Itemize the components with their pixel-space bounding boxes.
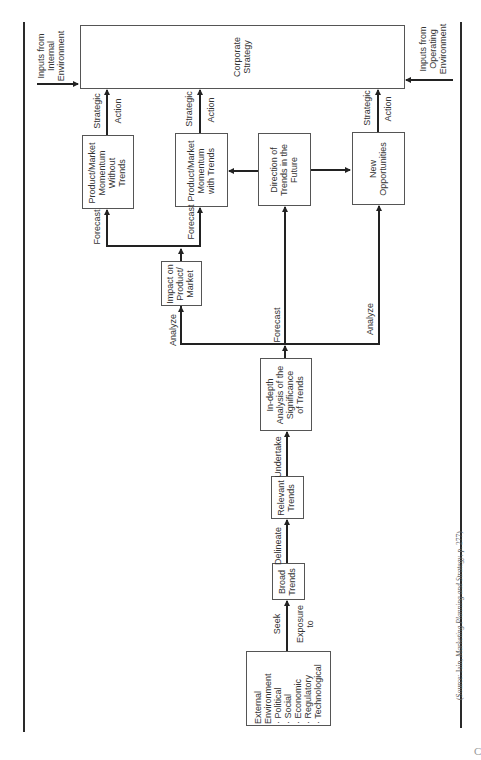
page-edge-character: C <box>474 745 481 757</box>
exposure-to-label: Exposure to <box>295 601 315 647</box>
new-opportunities-label: New Opportunities <box>368 134 390 204</box>
source-citation: (Source: Jain, Marketing Planning and St… <box>455 550 465 700</box>
pm-without-trends-label: Product/Market Momentum Without Trends <box>87 137 129 209</box>
indepth-analysis-label: In-depth Analysis of the Significance of… <box>265 360 307 430</box>
forecast-label-2: Forecast <box>186 201 196 243</box>
undertake-label: Undertake <box>273 433 283 481</box>
strategic-label-3: Strategic <box>362 86 372 130</box>
source-suffix: , p. 277) <box>455 531 464 556</box>
strategic-label-2: Strategic <box>184 87 194 131</box>
source-title: Marketing Planning and Strategy <box>455 556 464 657</box>
impact-on-pm-label: Impact on Product/ Market <box>165 259 197 309</box>
action-label-2: Action <box>206 92 216 128</box>
inputs-operating-label: Inputs from Operating Environment <box>418 19 450 79</box>
action-label-3: Action <box>383 91 393 127</box>
external-environment-label: External Environment · Political · Socia… <box>253 652 325 724</box>
strategic-label-1: Strategic <box>92 89 102 133</box>
direction-of-trends-label: Direction of Trends in the Future <box>269 135 301 205</box>
forecast-label-1: Forecast <box>92 206 102 248</box>
forecast-label-3: Forecast <box>272 304 282 346</box>
inputs-internal-label: Inputs from Internal Environment <box>36 28 68 84</box>
analyze-label-2: Analyze <box>365 299 375 339</box>
delineate-label: Delineate <box>273 524 283 568</box>
seek-label: Seek <box>272 609 282 639</box>
pm-with-trends-label: Product/Market Momentum with Trends <box>186 135 218 207</box>
source-prefix: (Source: Jain, <box>455 657 464 700</box>
analyze-label-1: Analyze <box>168 310 178 350</box>
relevant-trends-label: Relevant Trends <box>276 475 298 521</box>
action-label-1: Action <box>113 93 123 129</box>
corporate-strategy-label: Corporate Strategy <box>232 27 252 87</box>
